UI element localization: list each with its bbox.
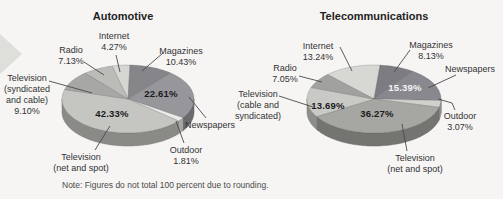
callout-line: Radio <box>58 45 84 56</box>
callout-line: Television <box>235 89 281 100</box>
callout-outdoor: Outdoor3.07% <box>444 111 477 133</box>
callout-line: Newspapers <box>185 120 235 131</box>
slice-value-tv-cable-synd: 13.69% <box>311 100 344 111</box>
leader-line-newspapers <box>428 75 456 88</box>
callout-line: 1.81% <box>170 156 203 167</box>
rounding-note: Note: Figures do not total 100 percent d… <box>62 180 269 190</box>
callout-magazines: Magazines10.43% <box>159 46 203 68</box>
slice-value-newspapers: 15.39% <box>388 82 421 93</box>
callout-line: (net and spot) <box>53 163 109 174</box>
callout-line: Internet <box>303 41 334 52</box>
callout-line: (net and spot) <box>387 164 443 175</box>
callout-line: 4.27% <box>99 42 130 53</box>
callout-internet: Internet13.24% <box>303 41 334 63</box>
callout-line: 9.10% <box>4 106 50 117</box>
figure-canvas: Automotive Telecommunications Note: Figu… <box>0 0 503 199</box>
callout-tv-net-spot: Television(net and spot) <box>387 153 443 175</box>
callout-line: 3.07% <box>444 122 477 133</box>
callout-line: 8.13% <box>409 51 453 62</box>
callout-newspapers: Newspapers <box>445 64 495 75</box>
callout-line: Magazines <box>159 46 203 57</box>
callout-tv-synd-cable: Television(syndicatedand cable)9.10% <box>4 73 50 117</box>
slice-value-newspapers: 22.61% <box>144 88 177 99</box>
callout-line: (syndicated <box>4 84 50 95</box>
callout-line: 7.13% <box>58 56 84 67</box>
callout-line: 13.24% <box>303 52 334 63</box>
callout-line: Television <box>53 152 109 163</box>
callout-line: Radio <box>272 63 298 74</box>
callout-line: Outdoor <box>170 145 203 156</box>
callout-radio: Radio7.13% <box>58 45 84 67</box>
callout-outdoor: Outdoor1.81% <box>170 145 203 167</box>
callout-line: syndicated) <box>235 111 281 122</box>
callout-line: 7.05% <box>272 74 298 85</box>
callout-tv-net-spot: Television(net and spot) <box>53 152 109 174</box>
callout-line: Magazines <box>409 40 453 51</box>
chart-title-telecommunications: Telecommunications <box>320 10 429 22</box>
slice-value-tv-net-spot: 36.27% <box>360 108 393 119</box>
leader-line-radio <box>299 76 322 82</box>
callout-line: Internet <box>99 31 130 42</box>
callout-tv-cable-synd: Television(cable andsyndicated) <box>235 89 281 122</box>
callout-line: 10.43% <box>159 57 203 68</box>
chart-title-automotive: Automotive <box>93 10 154 22</box>
callout-line: Outdoor <box>444 111 477 122</box>
slice-value-tv-net-spot: 42.33% <box>95 108 128 119</box>
callout-radio: Radio7.05% <box>272 63 298 85</box>
callout-line: Television <box>4 73 50 84</box>
callout-magazines: Magazines8.13% <box>409 40 453 62</box>
leader-line-internet <box>340 47 352 71</box>
callout-line: Television <box>387 153 443 164</box>
callout-line: Newspapers <box>445 64 495 75</box>
callout-line: and cable) <box>4 95 50 106</box>
callout-newspapers: Newspapers <box>185 120 235 131</box>
callout-line: (cable and <box>235 100 281 111</box>
callout-internet: Internet4.27% <box>99 31 130 53</box>
